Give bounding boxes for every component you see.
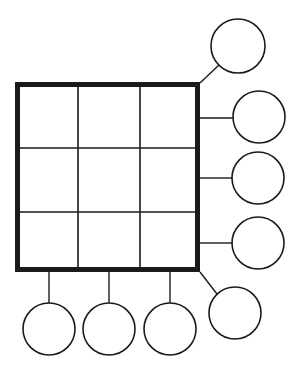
grid-cell-r1c2[interactable] [78, 85, 140, 148]
grid-and-circles-diagram [0, 0, 302, 380]
circle-bottom-1[interactable] [23, 303, 75, 355]
circle-bottom-right[interactable] [209, 287, 261, 339]
grid-cell-r2c1[interactable] [18, 148, 78, 212]
grid-cell-r3c3[interactable] [140, 212, 197, 269]
circle-bottom-3[interactable] [144, 303, 196, 355]
circle-right-3[interactable] [232, 217, 284, 269]
grid-cell-r1c3[interactable] [140, 85, 197, 148]
circle-right-1[interactable] [233, 91, 285, 143]
circle-top-right[interactable] [211, 19, 265, 73]
circle-bottom-2[interactable] [83, 303, 135, 355]
circle-right-2[interactable] [232, 152, 284, 204]
grid-cell-r1c1[interactable] [18, 85, 78, 148]
grid-cell-r3c2[interactable] [78, 212, 140, 269]
grid-cell-r2c2[interactable] [78, 148, 140, 212]
diagram-canvas [0, 0, 302, 380]
grid-cell-r2c3[interactable] [140, 148, 197, 212]
grid-layer [15, 82, 200, 272]
grid-cell-r3c1[interactable] [18, 212, 78, 269]
